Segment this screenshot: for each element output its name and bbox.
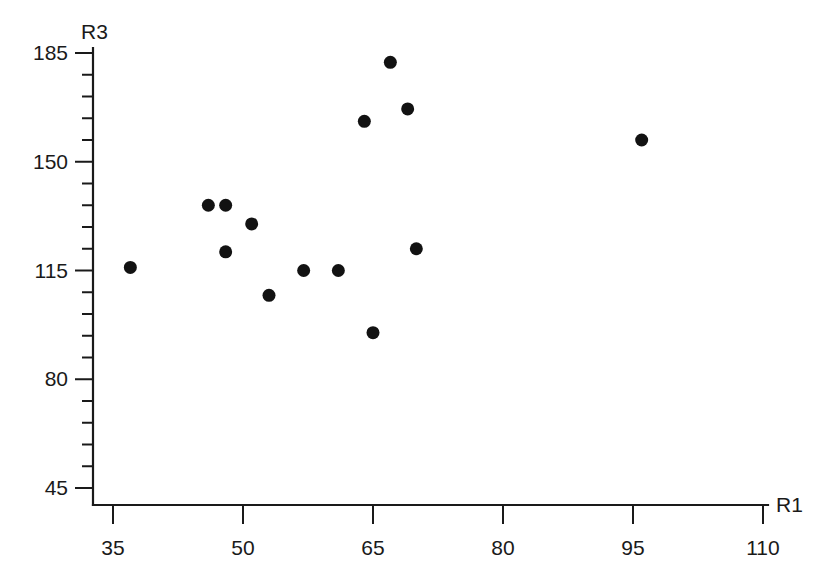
data-point bbox=[367, 326, 380, 339]
data-point bbox=[297, 264, 310, 277]
x-tick-label: 80 bbox=[491, 536, 514, 559]
data-point bbox=[384, 56, 397, 69]
x-axis-major-ticks bbox=[113, 505, 763, 524]
data-point bbox=[410, 242, 423, 255]
y-tick-label: 80 bbox=[45, 367, 68, 390]
data-point bbox=[245, 217, 258, 230]
data-point bbox=[635, 134, 648, 147]
y-tick-label: 115 bbox=[35, 259, 68, 282]
data-point bbox=[124, 261, 137, 274]
x-axis-group: 3550658095110 R1 bbox=[93, 493, 803, 559]
scatter-plot-figure: 4580115150185 R3 3550658095110 R1 bbox=[0, 0, 823, 580]
data-points-group bbox=[124, 56, 648, 339]
x-tick-label: 50 bbox=[231, 536, 254, 559]
data-point bbox=[401, 102, 414, 115]
x-tick-label: 65 bbox=[361, 536, 384, 559]
data-point bbox=[219, 245, 232, 258]
data-point bbox=[219, 199, 232, 212]
y-tick-label: 185 bbox=[33, 41, 68, 64]
y-axis-title: R3 bbox=[81, 20, 108, 43]
x-tick-label: 95 bbox=[621, 536, 644, 559]
x-tick-label: 110 bbox=[746, 536, 779, 559]
x-tick-label: 35 bbox=[101, 536, 124, 559]
data-point bbox=[263, 289, 276, 302]
x-axis-title: R1 bbox=[776, 493, 803, 516]
data-point bbox=[358, 115, 371, 128]
y-tick-label: 150 bbox=[33, 150, 68, 173]
plot-canvas: 4580115150185 R3 3550658095110 R1 bbox=[0, 0, 823, 580]
data-point bbox=[332, 264, 345, 277]
y-axis-tick-labels: 4580115150185 bbox=[33, 41, 68, 499]
y-tick-label: 45 bbox=[45, 476, 68, 499]
data-point bbox=[202, 199, 215, 212]
x-axis-tick-labels: 3550658095110 bbox=[101, 536, 779, 559]
y-axis-group: 4580115150185 R3 bbox=[33, 20, 108, 505]
